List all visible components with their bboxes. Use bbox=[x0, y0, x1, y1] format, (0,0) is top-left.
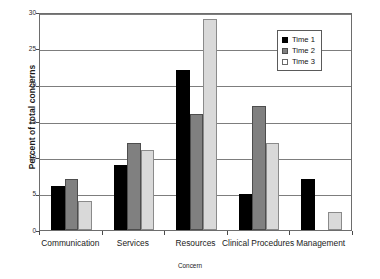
legend-label: Time 2 bbox=[292, 46, 315, 55]
legend-swatch-icon bbox=[282, 48, 288, 54]
legend-item-time-2: Time 2 bbox=[282, 45, 315, 56]
y-axis-tick-label: 25 bbox=[6, 46, 36, 53]
x-axis-tick-mark bbox=[227, 231, 228, 235]
x-axis-label-management: Management bbox=[283, 238, 358, 249]
bar-chart: Percent of total concerns 051015202530 C… bbox=[0, 0, 380, 279]
legend-swatch-icon bbox=[282, 59, 288, 65]
bar-time-2-communication bbox=[65, 179, 79, 230]
y-axis-tick-label: 10 bbox=[6, 155, 36, 162]
x-axis-tick-mark bbox=[39, 231, 40, 235]
bar-time-3-communication bbox=[78, 201, 92, 230]
bar-time-3-services bbox=[141, 150, 155, 230]
bar-time-1-services bbox=[114, 165, 128, 230]
y-axis-tick-label: 30 bbox=[6, 10, 36, 17]
x-axis-tick-mark bbox=[102, 231, 103, 235]
legend-item-time-1: Time 1 bbox=[282, 34, 315, 45]
bar-time-3-management bbox=[328, 212, 342, 230]
legend-label: Time 3 bbox=[292, 57, 315, 66]
bar-time-1-resources bbox=[176, 70, 190, 230]
bar-time-3-clinical-procedures bbox=[266, 143, 280, 230]
y-axis-tick-label: 15 bbox=[6, 119, 36, 126]
bar-time-2-services bbox=[127, 143, 141, 230]
bar-time-2-clinical-procedures bbox=[252, 106, 266, 230]
x-axis-title: Concern bbox=[0, 262, 380, 269]
x-axis-tick-mark bbox=[289, 231, 290, 235]
bar-time-3-resources bbox=[203, 19, 217, 230]
legend-item-time-3: Time 3 bbox=[282, 56, 315, 67]
chart-legend: Time 1Time 2Time 3 bbox=[277, 30, 322, 71]
y-axis-tick-label: 20 bbox=[6, 82, 36, 89]
y-axis-tick-label: 0 bbox=[6, 228, 36, 235]
gridline bbox=[40, 14, 351, 15]
legend-swatch-icon bbox=[282, 37, 288, 43]
bar-time-1-management bbox=[301, 179, 315, 230]
y-axis-title: Percent of total concerns bbox=[27, 32, 37, 202]
x-axis-tick-mark bbox=[164, 231, 165, 235]
y-axis-tick-label: 5 bbox=[6, 191, 36, 198]
gridline bbox=[40, 86, 351, 87]
bar-time-2-resources bbox=[190, 114, 204, 230]
bar-time-1-communication bbox=[51, 186, 65, 230]
bar-time-1-clinical-procedures bbox=[239, 194, 253, 230]
x-axis-tick-mark bbox=[352, 231, 353, 235]
legend-label: Time 1 bbox=[292, 35, 315, 44]
